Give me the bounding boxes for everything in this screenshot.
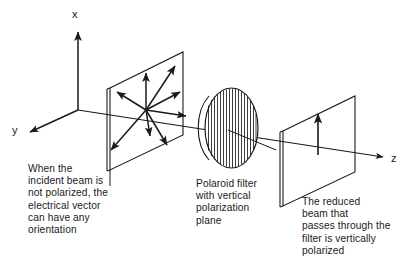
polarization-diagram-figure: x y z When the incident beam is not pola…: [0, 0, 414, 271]
polaroid-filter: [198, 88, 276, 168]
axis-label-y: y: [12, 124, 18, 136]
axis-label-x: x: [72, 8, 78, 20]
caption-incident-beam: When the incident beam is not polarized,…: [28, 163, 144, 236]
y-axis: [30, 110, 78, 132]
caption-reduced-beam: The reduced beam that passes through the…: [302, 196, 406, 257]
axis-label-z: z: [391, 152, 397, 164]
caption-polaroid-filter: Polaroid filter with vertical polarizati…: [196, 178, 292, 227]
polaroid-filter-ellipse: [205, 88, 258, 168]
